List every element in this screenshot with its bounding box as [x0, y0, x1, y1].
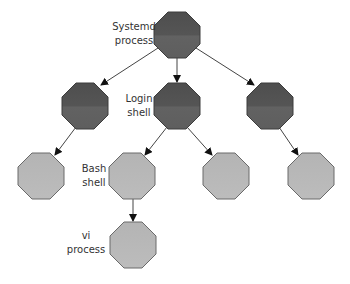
- node-login-octagon[interactable]: [154, 83, 200, 129]
- label-bash-line2: shell: [78, 176, 110, 190]
- label-vi: vi process: [62, 229, 110, 257]
- label-login-line2: shell: [120, 106, 158, 120]
- label-bash: Bash shell: [78, 162, 110, 190]
- label-systemd-line2: process: [108, 34, 160, 48]
- node-bash-octagon[interactable]: [109, 153, 155, 199]
- node-left-mid-octagon[interactable]: [62, 83, 108, 129]
- edge-systemd-right: [196, 48, 254, 85]
- node-vi-octagon[interactable]: [110, 222, 156, 268]
- label-vi-line1: vi: [62, 229, 110, 243]
- node-right-mid-octagon[interactable]: [247, 83, 293, 129]
- label-systemd: Systemd process: [108, 20, 160, 48]
- edge-login-bash: [145, 127, 167, 155]
- node-login-child-right-octagon[interactable]: [203, 153, 249, 199]
- label-systemd-line1: Systemd: [108, 20, 160, 34]
- label-login: Login shell: [120, 92, 158, 120]
- edge-left-mid-bottom: [55, 127, 76, 155]
- process-tree-diagram: [0, 0, 350, 284]
- label-login-line1: Login: [120, 92, 158, 106]
- label-vi-line2: process: [62, 243, 110, 257]
- node-left-bottom-octagon[interactable]: [18, 153, 64, 199]
- node-systemd-octagon[interactable]: [154, 12, 200, 58]
- edge-login-right: [187, 127, 212, 155]
- edge-systemd-left: [101, 48, 158, 85]
- label-bash-line1: Bash: [78, 162, 110, 176]
- edges: [55, 48, 298, 221]
- edge-right-mid-bottom: [279, 127, 298, 155]
- node-right-bottom-octagon[interactable]: [288, 153, 334, 199]
